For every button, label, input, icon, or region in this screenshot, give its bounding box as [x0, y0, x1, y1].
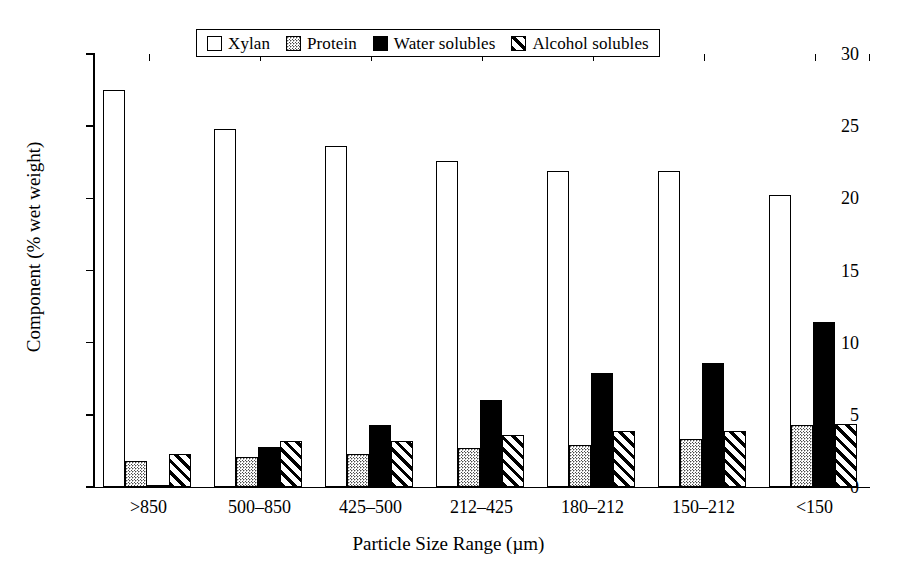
bar-group: [547, 54, 635, 487]
x-axis-category-label: >850: [93, 497, 204, 517]
bar-protein: [458, 448, 480, 487]
legend-item-water-solubles: Water solubles: [373, 35, 496, 52]
legend-label-water-solubles: Water solubles: [394, 35, 496, 52]
y-axis-tick: [86, 270, 93, 272]
bar-water-solubles: [591, 373, 613, 487]
chart-legend: Xylan Protein Water solubles Alcohol sol…: [196, 29, 660, 57]
bar-water-solubles: [813, 322, 835, 487]
legend-swatch-water-solubles-icon: [373, 36, 388, 51]
bar-xylan: [547, 171, 569, 487]
bar-group: [103, 54, 191, 487]
legend-item-alcohol-solubles: Alcohol solubles: [511, 35, 648, 52]
bar-xylan: [325, 146, 347, 487]
legend-swatch-alcohol-solubles-icon: [511, 36, 526, 51]
bar-alcohol-solubles: [835, 424, 857, 488]
y-axis-tick: [86, 125, 93, 127]
bar-alcohol-solubles: [502, 435, 524, 487]
bar-xylan: [214, 129, 236, 487]
bar-alcohol-solubles: [280, 441, 302, 487]
x-axis-title: Particle Size Range (µm): [0, 533, 897, 555]
x-axis-category-label: 180–212: [537, 497, 648, 517]
y-axis-tick: [86, 414, 93, 416]
bar-group: [658, 54, 746, 487]
plot-area: 051015202530: [93, 54, 870, 487]
bar-water-solubles: [480, 400, 502, 487]
legend-label-protein: Protein: [307, 35, 357, 52]
y-axis-tick: [86, 342, 93, 344]
bar-group: [325, 54, 413, 487]
legend-swatch-xylan-icon: [207, 36, 222, 51]
x-axis-end-tick: [869, 54, 871, 61]
bar-protein: [791, 425, 813, 487]
bar-group: [214, 54, 302, 487]
bar-water-solubles: [369, 425, 391, 487]
bar-protein: [125, 461, 147, 487]
bar-xylan: [658, 171, 680, 487]
bar-xylan: [103, 90, 125, 487]
legend-swatch-protein-icon: [286, 36, 301, 51]
bar-alcohol-solubles: [724, 431, 746, 487]
bar-water-solubles: [258, 447, 280, 487]
x-axis-tick: [704, 54, 706, 61]
bar-chart: Xylan Protein Water solubles Alcohol sol…: [0, 0, 897, 571]
y-axis-tick: [86, 198, 93, 200]
bar-alcohol-solubles: [391, 441, 413, 487]
x-axis-category-label: 150–212: [648, 497, 759, 517]
bar-xylan: [436, 161, 458, 487]
x-axis-category-label: <150: [759, 497, 870, 517]
legend-item-protein: Protein: [286, 35, 357, 52]
y-axis-tick: [86, 53, 93, 55]
legend-label-xylan: Xylan: [228, 35, 270, 52]
bar-group: [436, 54, 524, 487]
bar-alcohol-solubles: [169, 454, 191, 487]
x-axis-tick: [149, 54, 151, 61]
bar-group: [769, 54, 857, 487]
bar-water-solubles: [147, 485, 169, 487]
x-axis-category-label: 212–425: [426, 497, 537, 517]
legend-label-alcohol-solubles: Alcohol solubles: [532, 35, 648, 52]
bar-protein: [569, 445, 591, 487]
bar-protein: [680, 439, 702, 487]
x-axis-category-label: 500–850: [204, 497, 315, 517]
y-axis-tick: [86, 486, 93, 488]
bar-water-solubles: [702, 363, 724, 487]
bar-protein: [347, 454, 369, 487]
bar-protein: [236, 457, 258, 487]
bar-alcohol-solubles: [613, 431, 635, 487]
x-axis-tick: [815, 54, 817, 61]
y-axis-title: Component (% wet weight): [23, 47, 45, 447]
x-axis-category-label: 425–500: [315, 497, 426, 517]
legend-item-xylan: Xylan: [207, 35, 270, 52]
bar-xylan: [769, 195, 791, 487]
